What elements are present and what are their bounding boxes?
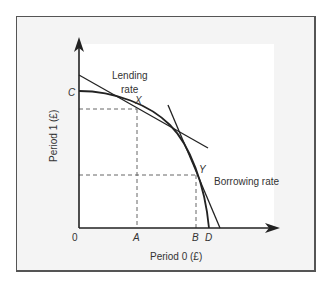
origin-label: 0 bbox=[72, 232, 78, 243]
point-d-label: D bbox=[205, 232, 212, 243]
point-a-label: A bbox=[132, 232, 140, 243]
point-b-label: B bbox=[192, 232, 199, 243]
lending-label-line1: Lending bbox=[112, 70, 148, 81]
y-axis-label: Period 1 (£) bbox=[48, 110, 59, 162]
x-axis-label: Period 0 (£) bbox=[150, 251, 202, 262]
lending-label-line2: rate bbox=[121, 84, 139, 95]
plot-area bbox=[79, 44, 274, 228]
point-c-label: C bbox=[68, 87, 76, 98]
point-x-label: X bbox=[134, 95, 142, 106]
investment-consumption-diagram: Lending rate Borrowing rate C X Y 0 A B … bbox=[0, 0, 334, 290]
borrowing-label: Borrowing rate bbox=[214, 176, 279, 187]
